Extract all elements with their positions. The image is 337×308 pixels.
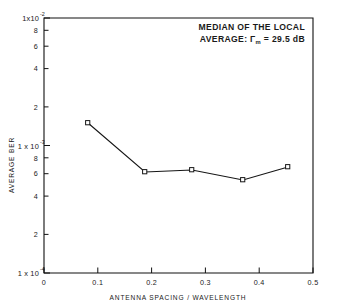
- data-point: [241, 178, 245, 182]
- data-point: [190, 168, 194, 172]
- annotation-line-2: AVERAGE: Γm = 29.5 dB: [200, 34, 305, 45]
- annotation-line-2-suffix: = 29.5 dB: [261, 34, 305, 44]
- y-minor-label-1: 6: [34, 42, 38, 51]
- y-decade-label-0: 1x10: [22, 14, 39, 23]
- y-decade-label-2: 1 x 10: [18, 269, 39, 278]
- y-minor-label-6: 4: [34, 192, 38, 201]
- annotation-line-2-prefix: AVERAGE:: [200, 34, 250, 44]
- y-decade-exponent-0: -2: [40, 11, 45, 17]
- y-minor-label-7: 2: [34, 230, 38, 239]
- y-minor-label-0: 8: [34, 26, 38, 35]
- data-point: [86, 121, 90, 125]
- y-minor-label-5: 6: [34, 169, 38, 178]
- x-tick-label-2: 0.2: [146, 278, 157, 287]
- annotation-line-1: MEDIAN OF THE LOCAL: [199, 22, 305, 32]
- x-tick-label-1: 0.1: [92, 278, 103, 287]
- x-tick-label-3: 0.3: [200, 278, 211, 287]
- annotation-median-local-average: MEDIAN OF THE LOCAL AVERAGE: Γm = 29.5 d…: [199, 22, 305, 45]
- x-tick-label-0: 0: [42, 278, 46, 287]
- y-minor-label-2: 4: [34, 64, 38, 73]
- y-decade-exponent-1: -3: [40, 139, 45, 145]
- chart-background: [0, 0, 337, 308]
- chart-figure: 1x10 -2 1 x 10 -3 1 x 10 -4 8 6 4 2 8 6 …: [0, 0, 337, 308]
- x-tick-label-4: 0.4: [254, 278, 265, 287]
- x-axis-title: ANTENNA SPACING / WAVELENGTH: [110, 294, 247, 301]
- y-decade-label-1: 1 x 10: [18, 142, 39, 151]
- y-axis-title: AVERAGE BER: [8, 137, 15, 193]
- chart-svg: 1x10 -2 1 x 10 -3 1 x 10 -4 8 6 4 2 8 6 …: [0, 0, 337, 308]
- y-minor-label-4: 8: [34, 154, 38, 163]
- y-minor-label-3: 2: [34, 103, 38, 112]
- x-tick-label-5: 0.5: [308, 278, 319, 287]
- data-point: [143, 170, 147, 174]
- data-point: [286, 165, 290, 169]
